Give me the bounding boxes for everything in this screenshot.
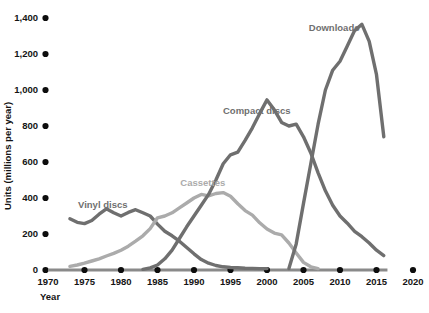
series-label-cassettes: Cassettes: [180, 177, 225, 188]
series-label-downloads: Downloads: [309, 22, 360, 33]
y-tick-dot: [42, 195, 48, 201]
y-tick-dot: [42, 87, 48, 93]
y-tick-label: 1,000: [14, 84, 38, 95]
x-tick-dot: [337, 267, 343, 273]
chart-container: 02004006008001,0001,2001,400 19701975198…: [0, 0, 429, 313]
x-tick-label: 2015: [366, 276, 388, 287]
y-tick-dot: [42, 51, 48, 57]
series-line-compact-discs: [143, 100, 384, 269]
x-tick-label: 1990: [183, 276, 204, 287]
x-tick-dot: [118, 267, 124, 273]
x-tick-label: 1985: [147, 276, 169, 287]
y-axis-title: Units (millions per year): [2, 102, 13, 210]
x-tick-label: 2000: [256, 276, 277, 287]
y-tick-label: 400: [22, 192, 38, 203]
y-tick-label: 600: [22, 156, 38, 167]
x-tick-dot: [191, 267, 197, 273]
y-tick-label: 1,200: [14, 48, 38, 59]
x-tick-label: 1995: [220, 276, 242, 287]
x-tick-label: 2020: [402, 276, 423, 287]
y-tick-dot: [42, 123, 48, 129]
y-tick-dot: [42, 159, 48, 165]
x-tick-dot: [410, 267, 416, 273]
x-tick-label: 2005: [293, 276, 315, 287]
y-tick-label: 1,400: [14, 12, 38, 23]
x-tick-dot: [373, 267, 379, 273]
x-tick-label: 1970: [37, 276, 58, 287]
x-tick-label: 1975: [74, 276, 96, 287]
y-tick-label: 0: [33, 264, 38, 275]
y-tick-dot: [42, 231, 48, 237]
data-series-group: [70, 24, 384, 269]
x-tick-label: 2010: [329, 276, 350, 287]
series-label-vinyl-discs: Vinyl discs: [78, 199, 127, 210]
x-tick-dot: [300, 267, 306, 273]
series-line-downloads: [289, 24, 384, 268]
line-chart: 02004006008001,0001,2001,400 19701975198…: [0, 0, 429, 313]
x-axis-title: Year: [40, 291, 60, 302]
x-tick-dot: [81, 267, 87, 273]
x-tick-dot: [154, 267, 160, 273]
y-axis-tick-dots: [42, 15, 48, 273]
x-tick-label: 1980: [110, 276, 131, 287]
y-axis-tick-labels: 02004006008001,0001,2001,400: [14, 12, 38, 275]
y-tick-dot: [42, 15, 48, 21]
y-tick-dot: [42, 267, 48, 273]
x-axis-tick-labels: 1970197519801985199019952000200520102015…: [37, 276, 423, 287]
y-tick-label: 800: [22, 120, 38, 131]
series-inline-labels: Vinyl discsCassettesCompact discsDownloa…: [78, 22, 359, 209]
series-label-compact-discs: Compact discs: [223, 105, 291, 116]
y-tick-label: 200: [22, 228, 38, 239]
